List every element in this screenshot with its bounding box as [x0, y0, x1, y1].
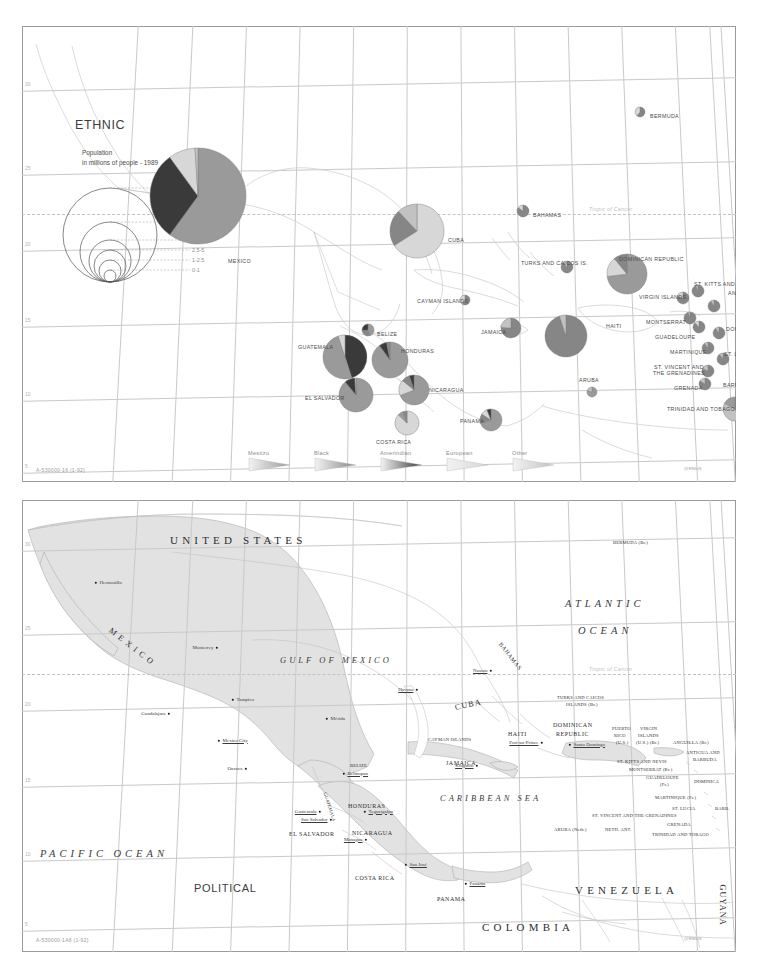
population-caption: Population in millions of people - 1989 — [82, 148, 158, 167]
country-label: VENEZUELA — [575, 884, 678, 896]
legend-label: Black — [314, 450, 380, 456]
political-map-id: A-530000-1A6 (1-92) — [36, 937, 89, 943]
latitude-tick: 25 — [25, 625, 31, 631]
pie-chart[interactable] — [634, 106, 646, 118]
pie-slice — [362, 324, 368, 330]
country-label: BARB. — [715, 806, 730, 811]
country-label: PUERTO — [612, 726, 631, 731]
pie-chart[interactable] — [586, 386, 598, 398]
legend-item-other[interactable]: Other — [512, 450, 578, 472]
country-label: ST. KITTS AND NEVIS — [617, 759, 667, 764]
latitude-tick: 5 — [25, 921, 28, 927]
pie-chart[interactable] — [389, 203, 445, 259]
country-label: BERMUDA — [650, 113, 679, 119]
country-label: BELIZE — [350, 763, 367, 768]
ocean-label: CARIBBEAN SEA — [440, 793, 541, 803]
legend-label: European — [446, 450, 512, 456]
city-label: Managua — [344, 837, 363, 842]
city-label: Tampico — [237, 697, 254, 702]
legend-label: Mestizo — [248, 450, 314, 456]
latitude-tick: 15 — [25, 317, 31, 323]
pie-chart[interactable] — [500, 317, 522, 339]
country-label: EL SALVADOR — [289, 831, 334, 837]
city-label: Tegucigalpa — [369, 809, 393, 814]
city-label: Guadalajara — [141, 711, 165, 716]
pie-chart[interactable] — [692, 320, 706, 334]
city-label: Havana — [398, 687, 413, 692]
legend-label: Amerindian — [380, 450, 446, 456]
pie-chart[interactable] — [322, 334, 368, 380]
ethnic-map-canvas: Tropic of Cancer 11511010510095908580757… — [22, 26, 736, 482]
size-key-circle — [89, 240, 131, 282]
legend-item-mestizo[interactable]: Mestizo — [248, 450, 314, 472]
pie-chart[interactable] — [712, 326, 726, 340]
country-label: CUBA — [448, 237, 464, 243]
city-label: San Salvador — [301, 817, 328, 822]
country-label: GRENADA — [667, 822, 691, 827]
political-tropic-label: Tropic of Cancer — [589, 666, 633, 672]
population-caption-line2: in millions of people - 1989 — [82, 158, 158, 168]
country-label: DOMINICA — [694, 779, 719, 784]
country-label: REPUBLIC — [556, 731, 589, 737]
ethnic-legend: MestizoBlackAmerindianEuropeanOther — [248, 450, 578, 472]
latitude-tick: 30 — [25, 81, 31, 87]
country-label: DOMINICAN REPUBLIC — [619, 256, 684, 262]
pie-chart[interactable] — [516, 204, 530, 218]
country-label: UNITED STATES — [170, 534, 307, 546]
country-label: MEXICO — [228, 258, 251, 264]
city-label: Nassau — [473, 668, 487, 673]
map-sheet: Tropic of Cancer 11511010510095908580757… — [0, 0, 758, 978]
latitude-tick: 30 — [25, 541, 31, 547]
pie-chart[interactable] — [707, 299, 721, 313]
latitude-tick: 20 — [25, 241, 31, 247]
country-label: ST. LUCIA — [724, 351, 736, 357]
country-label: VIRGIN ISLANDS — [639, 294, 686, 300]
legend-swatch-amerindian — [380, 457, 424, 472]
country-label: MARTINIQUE — [670, 349, 707, 355]
country-label: HAITI — [508, 731, 527, 737]
country-label: BELIZE — [377, 331, 397, 337]
pie-chart[interactable] — [398, 374, 430, 406]
legend-label: Other — [512, 450, 578, 456]
country-label: ANGUILLA (Br.) — [673, 740, 709, 745]
legend-swatch-black — [314, 457, 358, 472]
country-label: ST. KITTS AND NEVIS — [694, 281, 736, 287]
city-label: Kingston — [455, 763, 473, 768]
legend-swatch-other — [512, 457, 556, 472]
pie-chart[interactable] — [735, 366, 736, 380]
size-key-circle — [99, 260, 121, 282]
ocean-label: GULF OF MEXICO — [280, 655, 392, 665]
country-label: (Fr.) — [660, 782, 669, 787]
country-label: DOMINICAN — [553, 722, 593, 728]
country-label: TRINIDAD AND TOBAGO — [667, 406, 735, 412]
country-label: HAITI — [606, 323, 621, 329]
latitude-tick: 20 — [25, 701, 31, 707]
country-label: ST. VINCENT AND THE GRENADINES — [649, 364, 709, 376]
population-caption-line1: Population — [82, 148, 158, 158]
legend-item-black[interactable]: Black — [314, 450, 380, 472]
country-label: MONTSERRAT — [646, 319, 686, 325]
legend-item-european[interactable]: European — [446, 450, 512, 472]
country-label: PANAMA — [460, 418, 484, 424]
country-label: JAMAICA — [481, 329, 506, 335]
pie-slice — [501, 318, 511, 328]
country-label: ISLANDS (Br.) — [566, 702, 598, 707]
country-label: COLOMBIA — [482, 921, 574, 933]
country-label: COSTA RICA — [355, 875, 395, 881]
country-label: ANTIGUA AND BARBUDA — [728, 290, 736, 296]
city-label: Port-au-Prince — [509, 740, 538, 745]
pie-chart[interactable] — [394, 410, 420, 436]
country-label: RICO — [614, 733, 626, 738]
pie-chart[interactable] — [544, 314, 588, 358]
country-label: ST. LUCIA — [672, 806, 695, 811]
legend-item-amerindian[interactable]: Amerindian — [380, 450, 446, 472]
size-key-circle — [104, 270, 116, 282]
city-label: Panama — [470, 881, 486, 886]
legend-swatch-european — [446, 457, 490, 472]
ethnic-panel-title: ETHNIC — [75, 118, 125, 132]
pie-chart[interactable] — [149, 147, 247, 245]
city-label: Monterrey — [192, 645, 213, 650]
political-tropic-line — [22, 674, 736, 675]
country-label: GRENADA — [674, 385, 703, 391]
country-label: GUYANA — [718, 885, 727, 926]
